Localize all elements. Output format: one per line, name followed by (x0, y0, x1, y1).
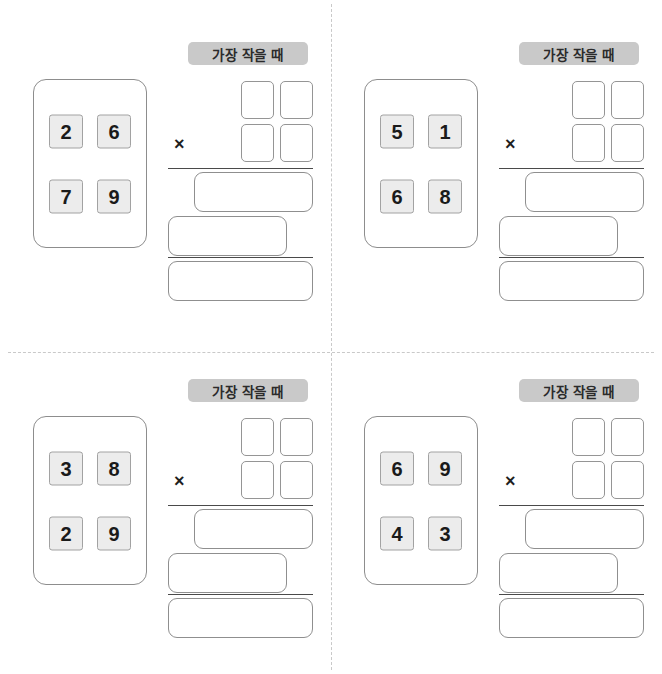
multiplication-problem-1: 가장 작을 때 × (168, 42, 313, 294)
rule-line-lower (168, 257, 313, 258)
digit-tile[interactable]: 4 (380, 516, 414, 550)
total-product-box[interactable] (168, 598, 313, 638)
blank-digit-box[interactable] (611, 418, 644, 456)
blank-digit-box[interactable] (241, 124, 274, 162)
condition-badge: 가장 작을 때 (188, 42, 308, 65)
digit-tile[interactable]: 9 (428, 451, 462, 485)
partial-product-box-1[interactable] (194, 172, 313, 212)
blank-digit-box[interactable] (241, 81, 274, 119)
digit-tile[interactable]: 3 (49, 451, 83, 485)
rule-line-upper (499, 168, 644, 169)
digit-tile[interactable]: 2 (49, 516, 83, 550)
problem-panel-1: 2 6 7 9 가장 작을 때 × (0, 0, 331, 337)
worksheet-page: 2 6 7 9 가장 작을 때 × 5 (0, 0, 662, 674)
blank-digit-box[interactable] (572, 418, 605, 456)
condition-badge: 가장 작을 때 (519, 42, 639, 65)
partial-product-box-2[interactable] (499, 216, 618, 256)
multiplication-problem-4: 가장 작을 때 × (499, 379, 644, 631)
digit-grid-1: 2 6 7 9 (34, 114, 146, 213)
partial-product-box-1[interactable] (194, 509, 313, 549)
blank-digit-box[interactable] (611, 81, 644, 119)
blank-digit-box[interactable] (241, 418, 274, 456)
digit-card-4: 6 9 4 3 (364, 416, 478, 585)
problem-panel-3: 3 8 2 9 가장 작을 때 × (0, 337, 331, 674)
digit-tile[interactable]: 2 (49, 114, 83, 148)
digit-tile[interactable]: 9 (97, 179, 131, 213)
digit-card-2: 5 1 6 8 (364, 79, 478, 248)
digit-grid-3: 3 8 2 9 (34, 451, 146, 550)
blank-digit-box[interactable] (572, 124, 605, 162)
rule-line-lower (168, 594, 313, 595)
digit-grid-4: 6 9 4 3 (365, 451, 477, 550)
partial-product-box-2[interactable] (499, 553, 618, 593)
rule-line-upper (168, 505, 313, 506)
digit-tile[interactable]: 6 (97, 114, 131, 148)
multiply-operator-icon: × (174, 472, 185, 490)
partial-product-box-1[interactable] (525, 509, 644, 549)
multiply-operator-icon: × (505, 135, 516, 153)
multiply-operator-icon: × (174, 135, 185, 153)
total-product-box[interactable] (168, 261, 313, 301)
total-product-box[interactable] (499, 261, 644, 301)
blank-digit-grid (241, 418, 313, 499)
partial-product-box-2[interactable] (168, 553, 287, 593)
rule-line-lower (499, 594, 644, 595)
blank-digit-grid (572, 81, 644, 162)
total-product-box[interactable] (499, 598, 644, 638)
blank-digit-box[interactable] (572, 461, 605, 499)
digit-tile[interactable]: 6 (380, 179, 414, 213)
blank-digit-grid (241, 81, 313, 162)
blank-digit-grid (572, 418, 644, 499)
blank-digit-box[interactable] (572, 81, 605, 119)
digit-card-1: 2 6 7 9 (33, 79, 147, 248)
digit-tile[interactable]: 6 (380, 451, 414, 485)
partial-product-box-1[interactable] (525, 172, 644, 212)
partial-product-box-2[interactable] (168, 216, 287, 256)
problem-panel-2: 5 1 6 8 가장 작을 때 × (331, 0, 662, 337)
multiplication-problem-3: 가장 작을 때 × (168, 379, 313, 631)
digit-tile[interactable]: 8 (97, 451, 131, 485)
blank-digit-box[interactable] (611, 124, 644, 162)
digit-tile[interactable]: 1 (428, 114, 462, 148)
digit-tile[interactable]: 8 (428, 179, 462, 213)
digit-tile[interactable]: 3 (428, 516, 462, 550)
rule-line-upper (168, 168, 313, 169)
digit-card-3: 3 8 2 9 (33, 416, 147, 585)
multiplication-problem-2: 가장 작을 때 × (499, 42, 644, 294)
blank-digit-box[interactable] (280, 461, 313, 499)
condition-badge: 가장 작을 때 (519, 379, 639, 402)
digit-tile[interactable]: 5 (380, 114, 414, 148)
blank-digit-box[interactable] (611, 461, 644, 499)
blank-digit-box[interactable] (280, 124, 313, 162)
multiply-operator-icon: × (505, 472, 516, 490)
blank-digit-box[interactable] (241, 461, 274, 499)
digit-grid-2: 5 1 6 8 (365, 114, 477, 213)
condition-badge: 가장 작을 때 (188, 379, 308, 402)
blank-digit-box[interactable] (280, 81, 313, 119)
problem-panel-4: 6 9 4 3 가장 작을 때 × (331, 337, 662, 674)
rule-line-upper (499, 505, 644, 506)
blank-digit-box[interactable] (280, 418, 313, 456)
digit-tile[interactable]: 7 (49, 179, 83, 213)
digit-tile[interactable]: 9 (97, 516, 131, 550)
rule-line-lower (499, 257, 644, 258)
